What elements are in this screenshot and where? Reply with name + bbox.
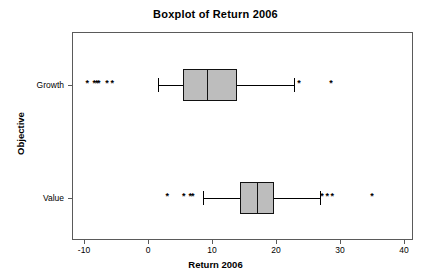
chart-title: Boxplot of Return 2006 [0,8,431,20]
x-tick-mark [148,240,149,244]
whisker-line [203,198,240,199]
x-tick-mark [404,240,405,244]
y-tick-label-growth: Growth [4,80,64,90]
x-tick-label: 30 [320,245,360,255]
median-line [207,69,208,101]
x-tick-label: 10 [192,245,232,255]
x-tick-mark [212,240,213,244]
outlier-marker: * [328,192,336,201]
x-tick-label: -10 [64,245,104,255]
whisker-line [158,85,184,86]
x-tick-mark [276,240,277,244]
x-tick-mark [84,240,85,244]
x-tick-mark [340,240,341,244]
whisker-line [274,198,320,199]
outlier-marker: * [189,192,197,201]
outlier-marker: * [327,79,335,88]
whisker-cap [203,191,204,205]
outlier-marker: * [295,79,303,88]
y-axis-label: Objective [15,94,26,174]
outlier-marker: * [368,192,376,201]
whisker-line [237,85,294,86]
y-tick-mark [68,198,72,199]
x-tick-label: 20 [256,245,296,255]
box-iqr [183,69,237,101]
outlier-marker: * [163,192,171,201]
x-axis-label: Return 2006 [0,259,431,270]
outlier-marker: * [95,79,103,88]
outlier-marker: * [108,79,116,88]
chart-canvas: Boxplot of Return 2006 **************** … [0,0,431,278]
x-tick-label: 40 [384,245,424,255]
x-tick-label: 0 [128,245,168,255]
y-tick-mark [68,85,72,86]
median-line [257,182,258,214]
y-tick-label-value: Value [4,193,64,203]
whisker-cap [158,78,159,92]
